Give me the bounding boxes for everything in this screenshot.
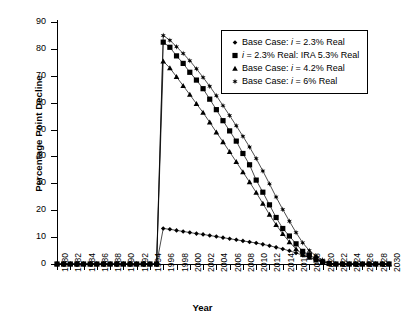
legend-item-label: Base Case: i = 6% Real (242, 76, 337, 87)
legend-square-icon (228, 50, 242, 61)
legend-item-0: Base Case: i = 2.3% Real (228, 36, 359, 49)
legend-triangle-icon (228, 63, 242, 74)
legend-star-icon (228, 76, 242, 87)
chart-legend: Base Case: i = 2.3% Reali = 2.3% Real: I… (221, 30, 368, 94)
legend-item-label: i = 2.3% Real: IRA 5.3% Real (242, 50, 359, 61)
series-line-0 (57, 229, 389, 264)
legend-item-1: i = 2.3% Real: IRA 5.3% Real (228, 49, 359, 62)
series-markers-0 (55, 226, 392, 266)
legend-item-label: Base Case: i = 4.2% Real (242, 63, 345, 74)
legend-item-2: Base Case: i = 4.2% Real (228, 62, 359, 75)
legend-diamond-icon (228, 37, 242, 48)
legend-item-label: Base Case: i = 2.3% Real (242, 37, 345, 48)
legend-item-3: Base Case: i = 6% Real (228, 75, 359, 88)
chart-figure: Percentage Point Decline Year 0102030405… (0, 0, 405, 324)
